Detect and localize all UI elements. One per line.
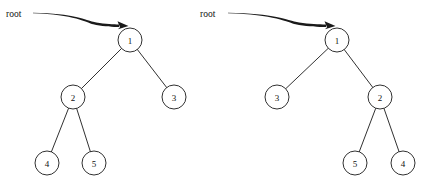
node-label-L3: 3 <box>172 93 177 103</box>
root-arrow-curve-1 <box>228 13 326 27</box>
node-label-R1: 1 <box>335 36 340 46</box>
root-arrow-curve-0 <box>33 13 119 27</box>
tree-node-2-left-tree[interactable]: 2 <box>61 85 85 109</box>
root-label-right-tree: root <box>200 9 216 19</box>
tree-node-5-right-tree[interactable]: 5 <box>343 151 367 175</box>
tree-node-3-right-tree[interactable]: 3 <box>265 85 289 109</box>
tree-node-4-right-tree[interactable]: 4 <box>391 151 415 175</box>
tree-node-2-right-tree[interactable]: 2 <box>368 85 392 109</box>
tree-edge-L1-L2 <box>81 48 122 89</box>
node-label-L5: 5 <box>92 159 97 169</box>
node-label-L2: 2 <box>71 93 76 103</box>
diagram-canvas: 12345root13254root <box>0 0 427 188</box>
node-label-R3: 3 <box>275 93 280 103</box>
root-pointer-left-tree <box>33 13 129 29</box>
node-label-R4: 4 <box>401 159 406 169</box>
tree-edge-R1-R3 <box>285 48 328 89</box>
node-label-R2: 2 <box>378 93 383 103</box>
node-label-L1: 1 <box>128 36 133 46</box>
tree-edge-R2-R4 <box>384 108 399 152</box>
tree-node-4-left-tree[interactable]: 4 <box>35 151 59 175</box>
node-label-R5: 5 <box>353 159 358 169</box>
tree-node-5-left-tree[interactable]: 5 <box>82 151 106 175</box>
tree-edge-L2-L5 <box>76 108 90 152</box>
right-tree: 13254root <box>200 9 415 175</box>
tree-diagram-svg: 12345root13254root <box>0 0 427 188</box>
tree-edge-R1-R2 <box>344 49 373 88</box>
tree-edge-L2-L4 <box>51 108 69 153</box>
left-tree: 12345root <box>6 9 186 175</box>
root-pointer-right-tree <box>228 13 336 29</box>
root-label-left-tree: root <box>6 9 22 19</box>
node-label-L4: 4 <box>45 159 50 169</box>
tree-edge-R2-R5 <box>359 108 376 152</box>
tree-node-1-right-tree[interactable]: 1 <box>325 28 349 52</box>
tree-edge-L1-L3 <box>137 49 167 88</box>
tree-node-1-left-tree[interactable]: 1 <box>118 28 142 52</box>
tree-node-3-left-tree[interactable]: 3 <box>162 85 186 109</box>
